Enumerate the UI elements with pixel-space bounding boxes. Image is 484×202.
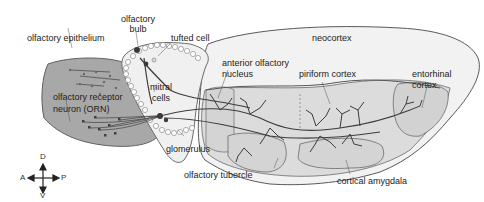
label-olfactory-bulb-line2: bulb [118, 24, 158, 34]
label-piriform-cortex: piriform cortex [299, 69, 356, 79]
label-olfactory-tubercle: olfactory tubercle [184, 170, 253, 180]
compass-anterior-label: A [20, 173, 25, 182]
compass-posterior-label: P [61, 173, 66, 182]
compass-dorsal-label: D [40, 152, 46, 161]
label-entorhinal-cortex-line1: entorhinal [412, 69, 452, 79]
label-entorhinal-cortex-line2: cortex [412, 80, 437, 90]
label-cortical-amygdala: cortical amygdala [337, 176, 407, 186]
compass-rose [28, 164, 59, 193]
label-anterior-olfactory-nucleus-line2: nucleus [222, 69, 253, 79]
compass-ventral-label: V [40, 191, 45, 200]
label-orn-line2: neuron (ORN) [53, 104, 110, 114]
label-tufted-cell: tufted cell [171, 33, 210, 43]
tufted-cell-body [152, 58, 156, 62]
olfactory-system-diagram: olfactory epithelium olfactory bulb tuft… [0, 0, 484, 202]
label-glomerulus: glomerulus [166, 144, 210, 154]
label-mitral-cells-line2: cells [144, 93, 178, 103]
label-olfactory-bulb-line1: olfactory [118, 14, 158, 24]
label-neocortex: neocortex [312, 33, 352, 43]
label-anterior-olfactory-nucleus-line1: anterior olfactory [222, 58, 289, 68]
cortical-amygdala-region [298, 138, 384, 168]
label-olfactory-epithelium: olfactory epithelium [27, 33, 105, 43]
label-orn-line1: olfactory receptor [53, 92, 123, 102]
label-mitral-cells-line1: mitral [144, 82, 178, 92]
